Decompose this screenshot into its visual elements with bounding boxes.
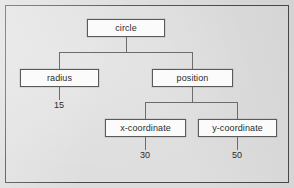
edge-circle-to-radius (59, 52, 60, 69)
edge-y-coordinate-to-value (237, 137, 238, 150)
object-diagram: circle radius position x-coordinate y-co… (0, 0, 294, 188)
figure-panel: circle radius position x-coordinate y-co… (0, 0, 294, 188)
value-radius: 15 (54, 101, 64, 110)
node-position: position (152, 69, 233, 87)
node-y-coordinate: y-coordinate (198, 119, 277, 137)
node-radius: radius (20, 69, 99, 87)
node-circle: circle (87, 19, 165, 37)
value-y-coordinate: 50 (232, 151, 242, 160)
edge-x-coordinate-to-value (145, 137, 146, 150)
edge-position-stem (192, 87, 193, 102)
edge-position-to-x-coordinate (145, 102, 146, 119)
edge-circle-bus (59, 52, 193, 53)
value-x-coordinate: 30 (140, 151, 150, 160)
edge-circle-to-position (192, 52, 193, 69)
edge-radius-to-value (59, 87, 60, 100)
node-x-coordinate: x-coordinate (105, 119, 186, 137)
edge-position-bus (145, 102, 238, 103)
edge-position-to-y-coordinate (237, 102, 238, 119)
edge-circle-stem (126, 37, 127, 52)
